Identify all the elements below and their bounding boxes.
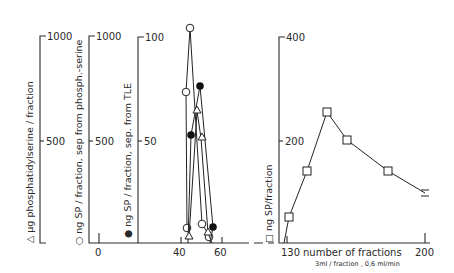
tick-label: 500 — [95, 136, 114, 147]
tick-label: 200 — [285, 136, 304, 147]
tick-label: 500 — [46, 136, 65, 147]
tick-label: 400 — [286, 32, 305, 43]
x-axis-sublabel: 3ml / fraction , 0,6 ml/min — [315, 260, 400, 268]
axis-label-sp-from-ps: ○ ng SP / fraction, sep from phosph.-ser… — [73, 39, 84, 245]
y-axis-sp-from-tle: 100 50 ● ng SP / fraction, sep. from TLE — [122, 32, 240, 243]
tick-label: 1000 — [47, 31, 72, 42]
axis-label-phosphatidylserine: △ µg phosphatidylserine / fraction — [24, 81, 35, 243]
series-open-square — [284, 108, 429, 243]
x-axis-label: number of fractions — [303, 247, 402, 258]
axis-label-sp-fraction: □ ng SP/fraction — [263, 164, 274, 243]
tick-label: 100 — [145, 32, 164, 43]
tick-label: 130 — [281, 247, 300, 258]
tick-label: 50 — [144, 136, 157, 147]
series-open-circle — [182, 24, 213, 241]
tick-label: 40 — [173, 247, 186, 258]
tick-label: 0 — [95, 247, 101, 258]
tick-label: 1000 — [96, 31, 121, 42]
y-axis-right-sp: 400 200 □ ng SP/fraction 130 200 number … — [263, 32, 434, 268]
y-axis-phosphatidylserine: 1000 500 △ µg phosphatidylserine / fract… — [24, 31, 72, 243]
axis-label-sp-from-tle: ● ng SP / fraction, sep. from TLE — [122, 83, 133, 238]
tick-label: 200 — [415, 247, 434, 258]
chromatography-chart: 1000 500 △ µg phosphatidylserine / fract… — [0, 0, 454, 273]
tick-label: 60 — [214, 247, 227, 258]
